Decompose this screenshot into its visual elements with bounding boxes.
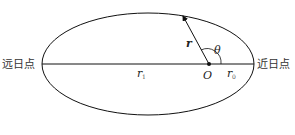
focus-label: O	[203, 69, 212, 82]
orbit-diagram: 远日点 近日点 r θ O r 1 r 0	[0, 0, 295, 135]
angle-label: θ	[214, 44, 221, 57]
r1-subscript: 1	[142, 73, 146, 80]
radius-vector-label: r	[186, 37, 193, 50]
aphelion-label: 远日点	[2, 58, 35, 71]
focus-point	[207, 62, 211, 66]
perihelion-label: 近日点	[257, 58, 290, 71]
r0-subscript: 0	[232, 73, 236, 80]
